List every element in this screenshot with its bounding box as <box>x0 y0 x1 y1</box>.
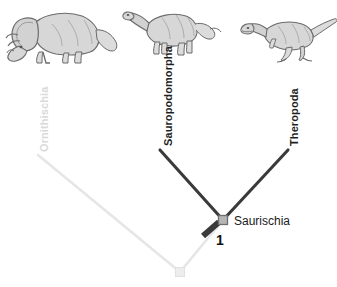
ceratopsian-illustration <box>6 13 117 63</box>
theropod-illustration <box>241 19 337 62</box>
cladogram-figure: Ornithischia Sauropodomorpha Theropoda S… <box>0 0 337 287</box>
branch-saurischia-to-sauropodomorpha <box>160 150 223 220</box>
taxon-label-theropoda: Theropoda <box>288 88 300 146</box>
taxon-label-ornithischia: Ornithischia <box>38 87 50 152</box>
node-dinosauria-root <box>176 268 185 277</box>
node-saurischia <box>219 216 228 225</box>
node-label-saurischia: Saurischia <box>234 214 290 228</box>
branch-saurischia-to-theropoda <box>223 150 288 220</box>
branch-root-to-ornithischia <box>38 155 180 272</box>
active-branch-group <box>160 150 288 220</box>
synapomorphy-number-1: 1 <box>216 232 224 248</box>
faded-branch-group <box>38 155 223 272</box>
taxon-label-sauropodomorpha: Sauropodomorpha <box>162 46 174 146</box>
